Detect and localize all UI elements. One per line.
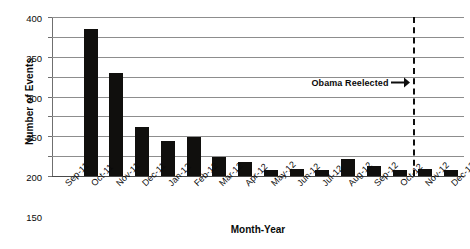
bar-slot [310, 17, 336, 176]
bar-slot [181, 17, 207, 176]
y-axis-tick: 0 [48, 176, 52, 177]
y-axis-tick-label: 250 [2, 132, 42, 143]
bar-chart: Number of Events 05010015020025030035040… [0, 0, 470, 249]
bar-slot [207, 17, 233, 176]
plot-area: 050100150200250300350400 Obama Reelected [52, 17, 464, 176]
bar-slot [155, 17, 181, 176]
event-annotation-label: Obama Reelected [311, 78, 388, 88]
bar-slot [438, 17, 464, 176]
bar [109, 73, 123, 176]
y-axis-tick-label: 350 [2, 52, 42, 63]
bar-series [52, 17, 464, 176]
x-axis-title: Month-Year [52, 224, 464, 235]
bar-slot [361, 17, 387, 176]
bar-slot [232, 17, 258, 176]
y-axis-tick-label: 400 [2, 13, 42, 24]
bar-slot [78, 17, 104, 176]
bar-slot [258, 17, 284, 176]
event-arrow-icon [391, 74, 411, 92]
bar-slot [387, 17, 413, 176]
bar [84, 29, 98, 176]
bar-slot [413, 17, 439, 176]
event-marker-line [413, 17, 415, 176]
bar-slot [284, 17, 310, 176]
bar-slot [104, 17, 130, 176]
bar-slot [129, 17, 155, 176]
bar-slot [52, 17, 78, 176]
y-axis-tick-label: 300 [2, 92, 42, 103]
y-axis-tick-label: 150 [2, 211, 42, 222]
bar-slot [335, 17, 361, 176]
y-axis-tick-label: 200 [2, 172, 42, 183]
